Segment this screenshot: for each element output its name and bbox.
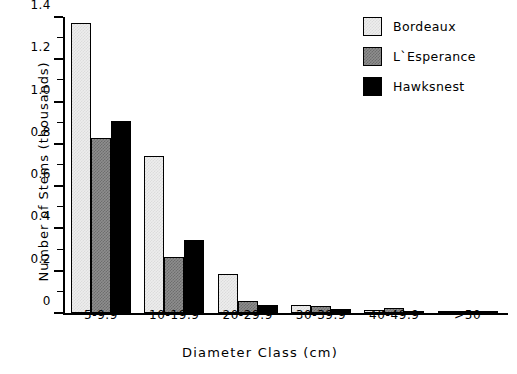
y-tick-label: 0.8 (30, 126, 51, 138)
y-tick-minor (57, 164, 63, 165)
y-tick-label: 1.0 (30, 84, 51, 96)
legend-item[interactable]: Hawksnest (363, 74, 476, 98)
y-tick-major (54, 101, 63, 103)
legend-label: Bordeaux (393, 19, 456, 34)
legend-label: L`Esperance (393, 49, 476, 64)
x-axis-title: Diameter Class (cm) (60, 345, 460, 360)
y-tick-label: 0.2 (30, 253, 51, 265)
bar-l-esperance-5-9.9[interactable] (91, 138, 111, 313)
y-tick-label: 0.4 (30, 210, 51, 222)
bar-group (71, 17, 131, 313)
y-tick-major (54, 185, 63, 187)
bar-group (218, 17, 278, 313)
bar-group (291, 17, 351, 313)
bar-chart-figure: Number of Stems (thousands) 00.20.40.60.… (0, 0, 517, 374)
y-tick-minor (57, 37, 63, 38)
bar-hawksnest-5-9.9[interactable] (111, 121, 131, 313)
y-tick-minor (57, 291, 63, 292)
bar-bordeaux-5-9.9[interactable] (71, 23, 91, 313)
y-tick-major (54, 58, 63, 60)
legend-swatch-icon (363, 17, 382, 36)
legend-item[interactable]: Bordeaux (363, 14, 476, 38)
y-tick-minor (57, 249, 63, 250)
legend: BordeauxL`EsperanceHawksnest (363, 14, 476, 104)
bar-bordeaux-10-19.9[interactable] (144, 156, 164, 314)
y-tick-major (54, 227, 63, 229)
bar-l-esperance-10-19.9[interactable] (164, 257, 184, 313)
y-axis-line (63, 17, 65, 314)
y-tick-major (54, 16, 63, 18)
y-tick-label: 0.6 (30, 168, 51, 180)
y-tick-label: 1.2 (30, 41, 51, 53)
y-tick-major (54, 143, 63, 145)
legend-swatch-icon (363, 77, 382, 96)
legend-swatch-icon (363, 47, 382, 66)
y-tick-major (54, 270, 63, 272)
legend-item[interactable]: L`Esperance (363, 44, 476, 68)
y-tick-minor (57, 122, 63, 123)
x-tick-label: >50 (423, 308, 513, 322)
y-tick-minor (57, 206, 63, 207)
bar-hawksnest-10-19.9[interactable] (184, 240, 204, 313)
y-tick-label: 1.4 (30, 0, 51, 11)
y-tick-minor (57, 79, 63, 80)
legend-label: Hawksnest (393, 79, 465, 94)
bar-group (144, 17, 204, 313)
y-tick-label: 0 (43, 295, 51, 307)
